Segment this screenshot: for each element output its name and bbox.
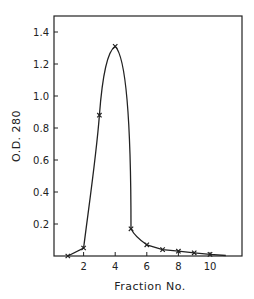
chart: 0.20.40.60.81.01.21.4 246810 Fraction No… (0, 0, 254, 299)
x-tick-label: 2 (80, 261, 86, 272)
x-tick-label: 8 (175, 261, 181, 272)
y-tick-label: 0.2 (33, 219, 49, 230)
y-tick-label: 1.0 (33, 91, 49, 102)
y-tick-label: 1.4 (33, 27, 49, 38)
y-axis-label: O.D. 280 (10, 110, 23, 162)
x-tick-label: 4 (112, 261, 118, 272)
data-curve (68, 46, 226, 256)
x-tick-label: 10 (204, 261, 217, 272)
x-axis-label: Fraction No. (114, 280, 186, 293)
data-markers (66, 44, 213, 258)
y-tick-label: 1.2 (33, 59, 49, 70)
x-tick-label: 6 (144, 261, 150, 272)
y-tick-label: 0.6 (33, 155, 49, 166)
x-marker-icon (113, 44, 117, 48)
y-tick-label: 0.4 (33, 187, 49, 198)
plot-frame (54, 16, 242, 256)
y-tick-label: 0.8 (33, 123, 49, 134)
